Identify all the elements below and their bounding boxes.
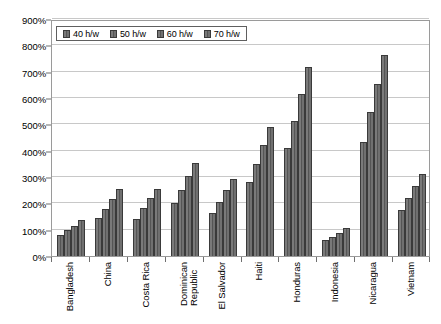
bar [260,145,267,256]
y-tick-label: 200% [22,199,46,210]
bar [360,142,367,256]
x-category-label: Indonesia [330,262,340,302]
bar [381,55,388,256]
bar [398,210,405,256]
legend-swatch-icon [204,30,211,38]
y-tick-label: 0% [32,252,46,263]
x-category-label: Bangladesh [65,262,75,311]
bar [102,209,109,256]
y-tick-label: 500% [22,120,46,131]
bars-layer [52,21,429,256]
bar [329,237,336,256]
y-tick-label: 600% [22,94,46,105]
x-axis-labels: BangladeshChinaCosta RicaDominican Repub… [51,262,430,324]
bar-group [52,21,90,256]
bar [305,67,312,256]
bar-group [242,21,280,256]
legend-label: 50 h/w [120,29,146,39]
legend-label: 70 h/w [214,29,240,39]
bar [185,176,192,256]
y-tick-label: 800% [22,41,46,52]
x-category-label: Haiti [254,262,264,281]
bar [71,226,78,256]
plot-area [51,20,430,257]
legend-entry: 40 h/w [63,29,99,39]
bar [109,199,116,256]
bar [291,121,298,256]
bar [322,240,329,256]
bar-group [317,21,355,256]
x-category-label: El Salvador [217,262,227,309]
bar [405,198,412,256]
bar [209,213,216,256]
bar-group [393,21,431,256]
x-category-label: Vietnam [406,262,416,296]
y-tick-label: 400% [22,146,46,157]
legend-entry: 70 h/w [204,29,240,39]
y-tick-label: 900% [22,15,46,26]
bar-group [355,21,393,256]
chart-legend: 40 h/w50 h/w60 h/w70 h/w [56,26,247,41]
bar-group [90,21,128,256]
bar-group [166,21,204,256]
bar-chart: 0%100%200%300%400%500%600%700%800%900% B… [0,0,441,324]
legend-swatch-icon [63,30,70,38]
bar [223,190,230,256]
bar [419,174,426,256]
bar-group [279,21,317,256]
x-category-label: Costa Rica [141,262,151,307]
legend-entry: 50 h/w [110,29,146,39]
gridline [52,18,429,19]
bar [336,233,343,256]
bar [171,203,178,256]
legend-entry: 60 h/w [157,29,193,39]
bar [147,198,154,256]
bar [64,230,71,256]
bar-group [204,21,242,256]
bar [116,189,123,256]
legend-label: 40 h/w [73,29,99,39]
bar [246,182,253,256]
y-tick-label: 300% [22,173,46,184]
bar [343,228,350,256]
bar [253,164,260,256]
legend-swatch-icon [110,30,117,38]
x-category-label: Dominican Republic [179,262,199,306]
bar [267,127,274,256]
bar [57,235,64,256]
bar [178,190,185,256]
y-tick-label: 700% [22,67,46,78]
bar [284,148,291,256]
x-category-label: Nicaragua [368,262,378,304]
bar [192,163,199,256]
x-category-label: Honduras [292,262,302,302]
y-axis: 0%100%200%300%400%500%600%700%800%900% [0,20,46,257]
bar [95,218,102,256]
bar [412,186,419,256]
bar [78,220,85,256]
legend-label: 60 h/w [167,29,193,39]
bar-group [128,21,166,256]
bar [374,84,381,256]
bar [154,189,161,256]
y-tick-label: 100% [22,225,46,236]
bar [133,219,140,256]
bar [367,112,374,256]
bar [298,94,305,256]
bar [230,179,237,256]
x-category-label: China [103,262,113,286]
bar [216,202,223,257]
legend-swatch-icon [157,30,164,38]
bar [140,208,147,256]
